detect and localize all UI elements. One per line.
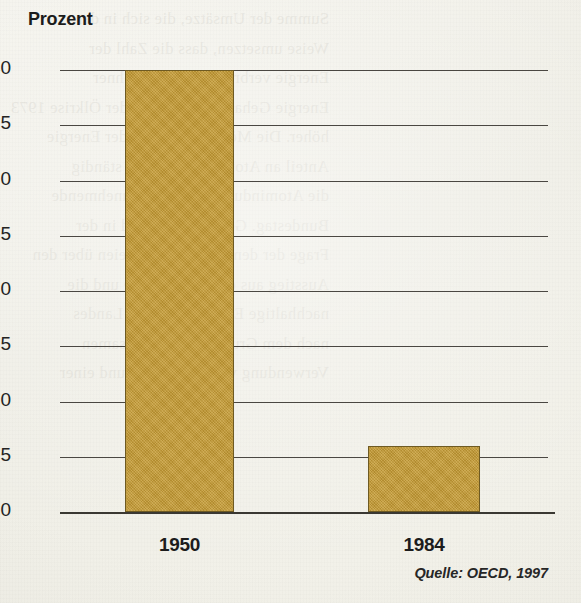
- y-axis-tick-label: 5: [0, 444, 11, 466]
- y-axis-tick-label: 10: [0, 389, 11, 411]
- x-axis-tick-label: 1950: [159, 534, 200, 556]
- y-axis-tick-label: 30: [0, 168, 11, 190]
- plot-area: 0510152025303540: [60, 70, 548, 512]
- bar-1984: [368, 446, 480, 512]
- y-axis-tick-label: 35: [0, 112, 11, 134]
- x-axis-tick-label: 1984: [403, 534, 444, 556]
- bar-1950: [125, 70, 234, 512]
- y-axis-tick-label: 40: [0, 57, 11, 79]
- x-axis-labels: 19501984: [60, 512, 555, 552]
- chart-title: Prozent: [28, 9, 93, 30]
- chart-page: Summe der Umsätze, die sich in derWeise …: [0, 0, 581, 603]
- source-note: Quelle: OECD, 1997: [414, 565, 548, 581]
- y-axis-tick-label: 15: [0, 333, 11, 355]
- y-axis-tick-label: 0: [0, 499, 11, 521]
- y-axis-tick-label: 25: [0, 223, 11, 245]
- y-axis-tick-label: 20: [0, 278, 11, 300]
